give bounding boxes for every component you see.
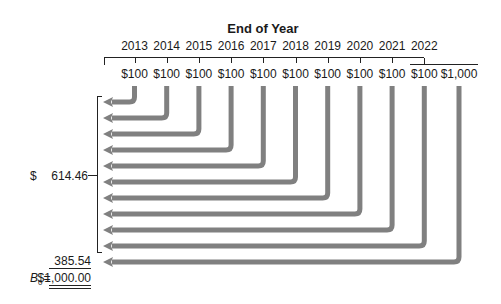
arrow-shaft — [112, 86, 199, 134]
year-label: 2018 — [282, 39, 309, 53]
year-label: 2019 — [314, 39, 341, 53]
year-label: 2016 — [218, 39, 245, 53]
coupon-payment-label: $100 — [153, 67, 180, 81]
arrow-left-icon — [103, 193, 113, 203]
arrow-left-icon — [103, 129, 113, 139]
year-label: 2022 — [411, 39, 438, 53]
year-label: 2020 — [347, 39, 374, 53]
year-label: 2014 — [153, 39, 180, 53]
coupon-payment-label: $100 — [282, 67, 309, 81]
arrow-left-icon — [103, 225, 113, 235]
year-label: 2015 — [186, 39, 213, 53]
year-label: 2017 — [250, 39, 277, 53]
coupon-payment-label: $100 — [314, 67, 341, 81]
bracket-line — [98, 97, 103, 253]
coupon-payment-label: $100 — [121, 67, 148, 81]
coupon-sum-currency: $ — [30, 169, 37, 183]
coupon-discount-arrow — [103, 86, 135, 107]
bond-value-total: $1,000.00 — [38, 271, 92, 285]
timeline-axis — [104, 58, 478, 66]
coupon-payment-label: $100 — [186, 67, 213, 81]
arrow-left-icon — [103, 161, 113, 171]
discount-arrows — [103, 86, 459, 267]
coupon-payment-label: $100 — [411, 67, 438, 81]
arrow-shaft — [112, 86, 392, 230]
bond-valuation-timeline-diagram: End of Year 2013 2014 2015 2016 2017 201… — [0, 0, 501, 304]
arrow-left-icon — [103, 145, 113, 155]
arrow-shaft — [112, 86, 135, 102]
coupon-sum-bracket — [88, 97, 102, 253]
arrow-left-icon — [103, 257, 113, 267]
arrow-left-icon — [103, 97, 113, 107]
coupon-discount-arrow — [103, 86, 263, 171]
arrow-left-icon — [103, 177, 113, 187]
payment-labels: $100 $100 $100 $100 $100 $100 $100 $100 … — [121, 67, 478, 81]
coupon-sum-value: 614.46 — [51, 169, 88, 183]
principal-discount-arrow — [103, 86, 459, 267]
principal-pv-value: 385.54 — [54, 254, 91, 268]
coupon-discount-arrow — [103, 86, 199, 139]
year-label: 2021 — [379, 39, 406, 53]
coupon-payment-label: $100 — [218, 67, 245, 81]
year-labels: 2013 2014 2015 2016 2017 2018 2019 2020 … — [121, 39, 438, 53]
arrow-left-icon — [103, 113, 113, 123]
principal-payment-label: $1,000 — [441, 67, 478, 81]
timeline-title: End of Year — [227, 21, 298, 36]
arrow-shaft — [112, 86, 459, 262]
coupon-payment-label: $100 — [347, 67, 374, 81]
year-label: 2013 — [121, 39, 148, 53]
coupon-payment-label: $100 — [250, 67, 277, 81]
arrow-left-icon — [103, 241, 113, 251]
arrow-left-icon — [103, 209, 113, 219]
coupon-payment-label: $100 — [379, 67, 406, 81]
